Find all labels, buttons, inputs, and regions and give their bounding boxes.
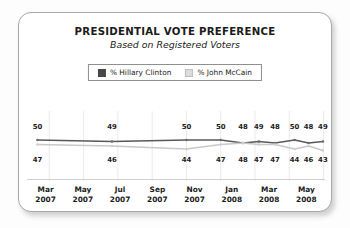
x-tick-year: 2007 bbox=[147, 195, 168, 205]
data-label-mccain: 46 bbox=[304, 156, 314, 164]
x-tick-month: Mar bbox=[259, 185, 280, 195]
data-label-clinton: 49 bbox=[318, 123, 328, 131]
data-label-clinton: 48 bbox=[270, 123, 280, 131]
data-point[interactable] bbox=[274, 143, 277, 146]
legend-label-hillary-clinton: % Hillary Clinton bbox=[110, 68, 171, 77]
x-tick-year: 2008 bbox=[259, 195, 280, 205]
data-label-mccain: 47 bbox=[33, 156, 43, 164]
data-point[interactable] bbox=[185, 139, 188, 142]
data-point[interactable] bbox=[322, 140, 325, 143]
data-label-clinton: 50 bbox=[182, 123, 192, 131]
x-tick-month: May bbox=[73, 185, 94, 195]
data-label-mccain: 48 bbox=[238, 156, 248, 164]
legend-item-hillary-clinton[interactable]: % Hillary Clinton bbox=[98, 68, 171, 77]
data-point[interactable] bbox=[111, 140, 114, 143]
data-label-clinton: 50 bbox=[290, 123, 300, 131]
page-background: PRESIDENTIAL VOTE PREFERENCE Based on Re… bbox=[0, 0, 350, 228]
chart-card: PRESIDENTIAL VOTE PREFERENCE Based on Re… bbox=[18, 12, 332, 212]
data-label-clinton: 50 bbox=[216, 123, 226, 131]
legend-swatch-john-mccain bbox=[185, 69, 193, 77]
data-point[interactable] bbox=[111, 145, 114, 148]
chart-legend: % Hillary Clinton % John McCain bbox=[88, 64, 262, 81]
data-point[interactable] bbox=[293, 139, 296, 142]
data-point[interactable] bbox=[219, 143, 222, 146]
data-label-mccain: 43 bbox=[318, 156, 328, 164]
data-point[interactable] bbox=[322, 149, 325, 152]
data-label-clinton: 49 bbox=[107, 123, 117, 131]
data-point[interactable] bbox=[307, 142, 310, 145]
series-line-john-mccain bbox=[37, 143, 322, 151]
x-tick-may-2008: May2008 bbox=[296, 185, 317, 204]
data-point[interactable] bbox=[219, 139, 222, 142]
chart-subtitle: Based on Registered Voters bbox=[19, 39, 331, 50]
x-tick-mar-2008: Mar2008 bbox=[259, 185, 280, 204]
data-point[interactable] bbox=[242, 142, 245, 145]
x-tick-jan-2008: Jan2008 bbox=[222, 185, 243, 204]
legend-swatch-hillary-clinton bbox=[98, 69, 106, 77]
data-label-mccain: 47 bbox=[216, 156, 226, 164]
data-point[interactable] bbox=[258, 140, 261, 143]
data-label-clinton: 49 bbox=[254, 123, 264, 131]
legend-label-john-mccain: % John McCain bbox=[197, 68, 252, 77]
x-axis-ticks: Mar2007May2007Jul2007Sep2007Nov2007Jan20… bbox=[27, 185, 325, 211]
series-line-hillary-clinton bbox=[37, 140, 322, 143]
axis-rule bbox=[27, 179, 325, 180]
data-point[interactable] bbox=[258, 143, 261, 146]
x-tick-year: 2007 bbox=[184, 195, 205, 205]
x-tick-month: Sep bbox=[147, 185, 168, 195]
data-label-mccain: 47 bbox=[270, 156, 280, 164]
data-label-mccain: 44 bbox=[290, 156, 300, 164]
x-tick-year: 2008 bbox=[222, 195, 243, 205]
x-tick-month: Jul bbox=[110, 185, 131, 195]
x-tick-year: 2007 bbox=[110, 195, 131, 205]
data-label-clinton: 48 bbox=[238, 123, 248, 131]
x-tick-month: Mar bbox=[35, 185, 56, 195]
data-label-mccain: 46 bbox=[107, 156, 117, 164]
data-label-clinton: 50 bbox=[33, 123, 43, 131]
data-point[interactable] bbox=[293, 148, 296, 151]
chart-title: PRESIDENTIAL VOTE PREFERENCE bbox=[19, 26, 331, 37]
data-point[interactable] bbox=[307, 145, 310, 148]
series-lines bbox=[27, 111, 325, 181]
plot-area: 5047494650445047484849474847504448464943 bbox=[27, 111, 325, 181]
x-tick-month: May bbox=[296, 185, 317, 195]
legend-item-john-mccain[interactable]: % John McCain bbox=[185, 68, 252, 77]
x-tick-may-2007: May2007 bbox=[73, 185, 94, 204]
x-tick-month: Nov bbox=[184, 185, 205, 195]
x-tick-year: 2008 bbox=[296, 195, 317, 205]
x-tick-year: 2007 bbox=[35, 195, 56, 205]
data-label-mccain: 47 bbox=[254, 156, 264, 164]
x-tick-sep-2007: Sep2007 bbox=[147, 185, 168, 204]
x-tick-month: Jan bbox=[222, 185, 243, 195]
data-point[interactable] bbox=[36, 143, 39, 146]
data-label-mccain: 44 bbox=[182, 156, 192, 164]
data-label-clinton: 48 bbox=[304, 123, 314, 131]
data-point[interactable] bbox=[185, 148, 188, 151]
x-tick-nov-2007: Nov2007 bbox=[184, 185, 205, 204]
x-tick-year: 2007 bbox=[73, 195, 94, 205]
x-tick-mar-2007: Mar2007 bbox=[35, 185, 56, 204]
x-tick-jul-2007: Jul2007 bbox=[110, 185, 131, 204]
data-point[interactable] bbox=[36, 139, 39, 142]
